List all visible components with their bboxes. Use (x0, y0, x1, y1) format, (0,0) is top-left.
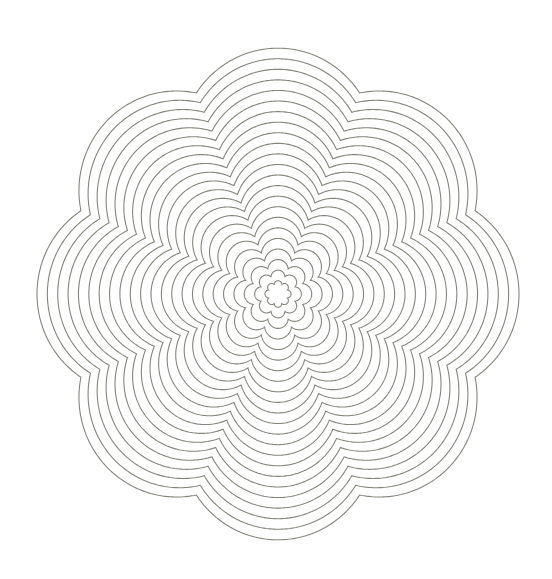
flower-ring (99, 112, 457, 477)
flower-ring (265, 281, 291, 308)
flower-ring (234, 249, 322, 339)
flower-ring (68, 80, 488, 508)
flower-ring (78, 90, 477, 497)
flower-rings-figure (0, 0, 552, 579)
flower-ring (172, 186, 385, 403)
flower-ring (151, 164, 405, 423)
flower-ring (192, 207, 363, 382)
flower-ring (130, 143, 425, 444)
flower-ring (58, 69, 499, 518)
flower-ring (47, 59, 508, 530)
flower-ring (161, 175, 394, 413)
flower-ring (213, 228, 343, 360)
flower-ring (120, 133, 436, 456)
flower-ring (89, 101, 467, 487)
flower-ring (255, 270, 302, 318)
concentric-rings-group (37, 48, 519, 540)
flower-ring (224, 238, 333, 349)
flower-ring (203, 217, 353, 370)
flower-ring (182, 196, 374, 392)
flower-ring (110, 122, 447, 466)
